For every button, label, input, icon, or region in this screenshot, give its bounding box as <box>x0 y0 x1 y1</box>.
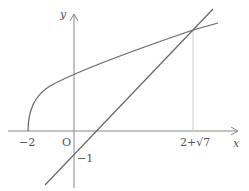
y-axis-label: y <box>59 8 67 21</box>
x-axis-label: x <box>233 137 240 150</box>
graph: y x O −2 −1 2+√7 <box>0 0 249 191</box>
tick-neg2: −2 <box>19 136 35 149</box>
origin-label: O <box>62 136 71 149</box>
line <box>45 9 213 185</box>
sqrt-curve <box>28 23 218 131</box>
tick-neg1: −1 <box>77 152 93 165</box>
tick-intersect: 2+√7 <box>180 136 210 149</box>
